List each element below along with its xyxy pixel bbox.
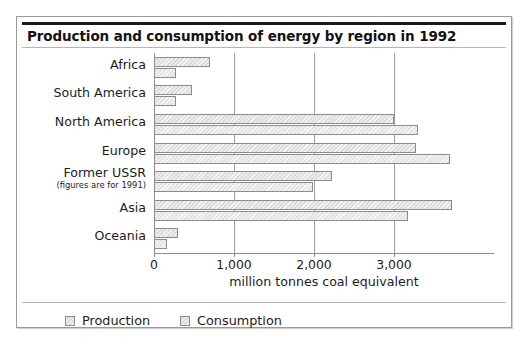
bar-production-europe — [154, 143, 416, 153]
chart-title-bar: Production and consumption of energy by … — [22, 22, 506, 48]
chart-figure: Production and consumption of energy by … — [16, 16, 512, 328]
category-label-asia: Asia — [22, 202, 146, 215]
category-label-note: (figures are for 1991) — [22, 181, 146, 191]
legend-label: Consumption — [197, 313, 282, 328]
category-label-main: South America — [53, 85, 146, 100]
category-label-former-ussr: Former USSR(figures are for 1991) — [22, 167, 146, 190]
bars-container — [154, 53, 474, 253]
bar-consumption-oceania — [154, 239, 167, 249]
chart-legend: ProductionConsumption — [65, 313, 282, 328]
x-tick-label-1000: 1,000 — [216, 257, 251, 272]
bar-consumption-north-america — [154, 125, 418, 135]
category-label-south-america: South America — [22, 87, 146, 100]
legend-divider — [22, 302, 506, 303]
category-label-north-america: North America — [22, 116, 146, 129]
bar-production-africa — [154, 57, 210, 67]
category-label-main: North America — [55, 114, 146, 129]
category-axis: AfricaSouth AmericaNorth AmericaEuropeFo… — [22, 53, 150, 253]
category-label-main: Europe — [102, 143, 146, 158]
category-label-oceania: Oceania — [22, 230, 146, 243]
category-label-africa: Africa — [22, 59, 146, 72]
bar-production-north-america — [154, 114, 394, 124]
bar-consumption-europe — [154, 154, 450, 164]
legend-item-consumption[interactable]: Consumption — [180, 313, 282, 328]
bar-consumption-asia — [154, 211, 408, 221]
legend-item-production[interactable]: Production — [65, 313, 150, 328]
plot-area: AfricaSouth AmericaNorth AmericaEuropeFo… — [22, 53, 506, 285]
category-label-main: Former USSR — [63, 165, 146, 180]
category-label-europe: Europe — [22, 145, 146, 158]
bar-production-south-america — [154, 85, 192, 95]
x-tick-label-3000: 3,000 — [376, 257, 411, 272]
legend-swatch-production — [65, 316, 75, 326]
bar-consumption-africa — [154, 68, 176, 78]
legend-swatch-consumption — [180, 316, 190, 326]
bar-consumption-south-america — [154, 96, 176, 106]
legend-label: Production — [82, 313, 150, 328]
category-label-main: Asia — [120, 200, 146, 215]
category-label-main: Oceania — [94, 228, 146, 243]
bar-consumption-former-ussr — [154, 182, 313, 192]
bar-production-asia — [154, 200, 452, 210]
x-axis-title: million tonnes coal equivalent — [154, 274, 494, 289]
bar-production-oceania — [154, 228, 178, 238]
x-tick-label-0: 0 — [150, 257, 158, 272]
x-axis-line — [154, 253, 494, 254]
x-tick-label-2000: 2,000 — [296, 257, 331, 272]
page-title: Production and consumption of energy by … — [22, 28, 456, 44]
bar-production-former-ussr — [154, 171, 332, 181]
category-label-main: Africa — [110, 57, 146, 72]
